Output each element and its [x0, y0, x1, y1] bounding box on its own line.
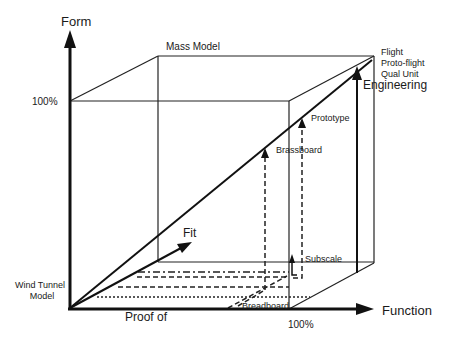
function-axis [68, 303, 374, 315]
prototype-label: Prototype [311, 113, 350, 123]
arrow-up-icon [289, 254, 295, 263]
arrow-right-icon [356, 303, 374, 315]
wind-tunnel-label-line1: Wind Tunnel [15, 280, 65, 290]
form-axis [64, 30, 76, 310]
fit-axis-label: Fit [183, 226, 197, 240]
maturity-cube-diagram: Form 100% Function 100% Proof of Fit Mas… [0, 0, 452, 343]
engineering-label: Engineering [363, 78, 427, 92]
form-axis-label: Form [61, 14, 91, 29]
function-axis-label: Function [382, 303, 432, 318]
mass-model-label: Mass Model [166, 41, 220, 52]
engineering-arrow [352, 66, 362, 273]
form-max-label: 100% [32, 96, 58, 107]
function-max-label: 100% [288, 319, 314, 330]
wind-tunnel-label-line2: Model [30, 291, 55, 301]
subscale-arrow [289, 254, 297, 275]
breadboard-label: Breadboard [242, 301, 289, 311]
subscale-marker-icon [289, 249, 297, 256]
projection-lines [97, 128, 310, 308]
brassboard-label: Brassboard [276, 145, 322, 155]
connector-top-left [70, 56, 158, 101]
arrow-up-icon [352, 66, 362, 80]
arrow-up-icon [64, 30, 76, 48]
subscale-label: Subscale [305, 254, 342, 264]
flight-label: Flight [381, 47, 404, 57]
proto-flight-label: Proto-flight [381, 58, 425, 68]
markers [63, 53, 376, 309]
proof-of-label: Proof of [125, 310, 168, 324]
maturity-diagonal [70, 60, 372, 308]
fit-axis [70, 242, 192, 308]
arrow-diagonal-icon [177, 242, 192, 253]
